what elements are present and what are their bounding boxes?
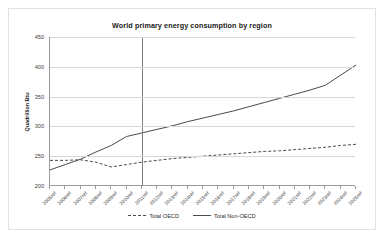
gridline [50, 156, 355, 157]
x-tick-label: 2005ref [41, 190, 57, 206]
series-layer [50, 37, 356, 186]
y-tick-label: 400 [35, 64, 44, 70]
legend-label: Total Non-OECD [214, 213, 256, 219]
x-tick-label: 2006ref [56, 190, 72, 206]
chart-title: World primary energy consumption by regi… [9, 21, 375, 30]
x-tick [110, 186, 111, 189]
x-tick [309, 186, 310, 189]
x-tick-label: 2008ref [87, 190, 103, 206]
x-tick [263, 186, 264, 189]
x-tick [217, 186, 218, 189]
x-tick [126, 186, 127, 189]
gridline [50, 67, 355, 68]
x-tick-label: 2024ref [332, 190, 348, 206]
x-tick-label: 2009ref [102, 190, 118, 206]
x-tick [80, 186, 81, 189]
x-tick [340, 186, 341, 189]
x-tick [233, 186, 234, 189]
history-projection-divider [142, 37, 143, 186]
x-tick-label: 2018ref [240, 190, 256, 206]
x-tick-label: 2025ref [347, 190, 363, 206]
x-tick [324, 186, 325, 189]
y-tick-label: 450 [35, 34, 44, 40]
x-tick-label: 2015ref [194, 190, 210, 206]
x-tick-label: 2010ref [118, 190, 134, 206]
x-tick [95, 186, 96, 189]
x-tick-label: 2016ref [209, 190, 225, 206]
x-tick-label: 2022ref [301, 190, 317, 206]
x-tick [64, 186, 65, 189]
gridline [50, 126, 355, 127]
legend-swatch-icon [128, 214, 146, 218]
x-tick [171, 186, 172, 189]
x-tick [187, 186, 188, 189]
y-tick-label: 200 [35, 183, 44, 189]
gridline [50, 37, 355, 38]
series-line [50, 65, 356, 170]
chart-legend: Total OECDTotal Non-OECD [9, 213, 375, 219]
x-tick [49, 186, 50, 189]
y-tick-label: 250 [35, 153, 44, 159]
x-tick-label: 2007ref [72, 190, 88, 206]
legend-swatch-icon [193, 214, 211, 218]
legend-item[interactable]: Total Non-OECD [193, 213, 256, 219]
y-axis-tick-labels: 200250300350400450 [9, 37, 47, 186]
legend-item[interactable]: Total OECD [128, 213, 179, 219]
x-tick [156, 186, 157, 189]
x-tick [294, 186, 295, 189]
x-tick-label: 2013ref [163, 190, 179, 206]
x-tick [248, 186, 249, 189]
x-tick [355, 186, 356, 189]
x-tick-label: 2019ref [255, 190, 271, 206]
gridline [50, 97, 355, 98]
plot-area [49, 37, 355, 186]
y-tick-label: 350 [35, 94, 44, 100]
legend-label: Total OECD [149, 213, 179, 219]
x-tick-label: 2021ref [286, 190, 302, 206]
chart-figure: World primary energy consumption by regi… [8, 8, 376, 230]
x-tick-label: 2017ref [225, 190, 241, 206]
x-tick-label: 2023ref [316, 190, 332, 206]
x-tick [141, 186, 142, 189]
x-tick-label: 2011ref [133, 190, 149, 206]
x-tick [202, 186, 203, 189]
x-tick [279, 186, 280, 189]
y-tick-label: 300 [35, 123, 44, 129]
x-tick-label: 2014ref [179, 190, 195, 206]
x-tick-label: 2020ref [271, 190, 287, 206]
x-tick-label: 2012ref [148, 190, 164, 206]
